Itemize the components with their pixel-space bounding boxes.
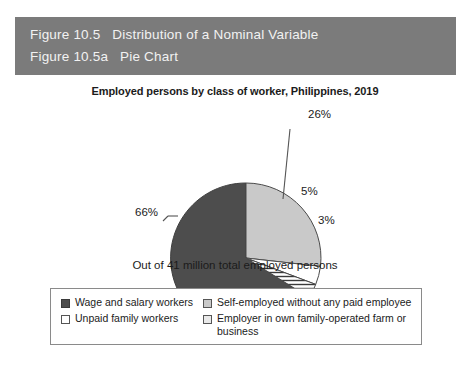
legend-label-employer-own-farm: Employer in own family-operated farm or … — [217, 312, 419, 338]
figure-header-band: Figure 10.5 Distribution of a Nominal Va… — [15, 17, 456, 75]
legend-item-employer-own-farm: Employer in own family-operated farm or … — [203, 312, 419, 338]
legend-label-self-employed: Self-employed without any paid employee — [217, 296, 411, 309]
legend-item-self-employed: Self-employed without any paid employee — [203, 296, 419, 309]
legend-item-wage-and-salary: Wage and salary workers — [61, 296, 211, 309]
legend-swatch-gray-icon — [203, 299, 212, 308]
chart-panel: Employed persons by class of worker, Phi… — [0, 75, 470, 366]
legend-column-right: Self-employed without any paid employee … — [203, 296, 419, 341]
legend-swatch-hatched-icon — [203, 315, 212, 324]
pie-data-label-5: 5% — [301, 185, 318, 197]
legend-label-wage-and-salary: Wage and salary workers — [75, 296, 193, 309]
figure-header-line-2: Figure 10.5a Pie Chart — [30, 46, 456, 68]
leader-line-26 — [283, 129, 290, 199]
pie-data-label-3: 3% — [318, 214, 335, 226]
legend-label-unpaid-family: Unpaid family workers — [75, 312, 178, 325]
chart-caption: Out of 41 million total employed persons — [0, 259, 470, 271]
pie-data-label-66: 66% — [135, 206, 158, 218]
chart-legend: Wage and salary workers Unpaid family wo… — [50, 288, 422, 345]
leader-line-66-hook — [163, 216, 168, 221]
figure-header-line-1: Figure 10.5 Distribution of a Nominal Va… — [30, 24, 456, 46]
legend-swatch-solid-dark-icon — [61, 299, 70, 308]
pie-data-label-26: 26% — [308, 108, 331, 120]
legend-swatch-white-icon — [61, 315, 70, 324]
legend-column-left: Wage and salary workers Unpaid family wo… — [61, 296, 211, 328]
legend-item-unpaid-family: Unpaid family workers — [61, 312, 211, 325]
